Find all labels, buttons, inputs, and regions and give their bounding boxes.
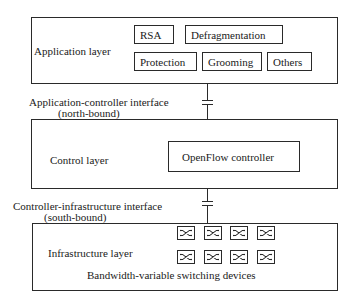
crossbar-switch-icon [230, 226, 248, 240]
module-rsa: RSA [134, 25, 174, 44]
crossbar-switch-icon [204, 250, 222, 264]
module-grooming: Grooming [202, 52, 262, 71]
module-defragmentation: Defragmentation [185, 25, 283, 44]
crossbar-switch-icon [230, 250, 248, 264]
application-layer-label: Application layer [34, 45, 111, 57]
control-layer-label: Control layer [50, 154, 108, 166]
southbound-interface-plate-top [202, 201, 213, 202]
infrastructure-layer-label: Infrastructure layer [48, 247, 133, 259]
northbound-connector-upper [207, 84, 208, 100]
southbound-connector-upper [207, 189, 208, 201]
devices-caption: Bandwidth-variable switching devices [87, 269, 256, 281]
southbound-connector-lower [207, 206, 208, 223]
module-others: Others [267, 52, 312, 71]
openflow-controller-box: OpenFlow controller [168, 141, 300, 172]
module-protection: Protection [134, 52, 197, 71]
northbound-connector-lower [207, 105, 208, 119]
crossbar-switch-icon [177, 250, 195, 264]
crossbar-switch-icon [204, 226, 222, 240]
southbound-interface-sublabel: (south-bound) [44, 211, 106, 223]
crossbar-switch-icon [177, 226, 195, 240]
northbound-interface-plate-top [202, 100, 213, 101]
crossbar-switch-icon [257, 250, 275, 264]
crossbar-switch-icon [257, 226, 275, 240]
northbound-interface-sublabel: (north-bound) [58, 107, 120, 119]
